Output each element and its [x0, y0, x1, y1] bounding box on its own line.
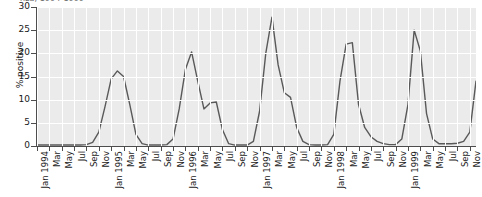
x-tick-label: Sep — [164, 151, 173, 167]
x-tick-label: Jan 1997 — [263, 151, 272, 188]
x-tick-label: Mar — [424, 151, 433, 167]
x-axis-tick-labels: Jan 1994MarMayJulSepNovJan 1995MarMayJul… — [37, 151, 476, 197]
grid-line-vertical — [111, 7, 112, 146]
grid-line-vertical — [173, 7, 174, 146]
grid-line-vertical — [470, 7, 471, 146]
y-tick-label: 25 — [12, 25, 30, 34]
x-tick-label: Jul — [449, 151, 458, 161]
grid-line-vertical — [321, 7, 322, 146]
grid-line-horizontal — [37, 30, 476, 31]
grid-line-vertical — [408, 7, 409, 146]
x-tick-label: Jul — [374, 151, 383, 161]
grid-line-horizontal — [37, 100, 476, 101]
x-tick-label: Jul — [78, 151, 87, 161]
grid-line-vertical — [371, 7, 372, 146]
grid-line-vertical — [297, 7, 298, 146]
grid-line-vertical — [124, 7, 125, 146]
y-tick-label: 10 — [12, 95, 30, 104]
grid-line-vertical — [222, 7, 223, 146]
x-tick-label: Nov — [399, 151, 408, 168]
x-tick-label: Sep — [461, 151, 470, 167]
grid-line-vertical — [272, 7, 273, 146]
x-tick-label: Mar — [127, 151, 136, 167]
x-tick-label: Mar — [350, 151, 359, 167]
y-tick-label: 5 — [12, 118, 30, 127]
grid-line-vertical — [247, 7, 248, 146]
grid-line-vertical — [99, 7, 100, 146]
grid-line-vertical — [359, 7, 360, 146]
grid-line-horizontal — [37, 7, 476, 8]
grid-line-vertical — [383, 7, 384, 146]
x-tick-label: May — [436, 151, 445, 169]
grid-line-vertical — [49, 7, 50, 146]
x-tick-label: May — [288, 151, 297, 169]
grid-line-vertical — [74, 7, 75, 146]
grid-line-vertical — [433, 7, 434, 146]
grid-line-vertical — [346, 7, 347, 146]
y-tick-label: 20 — [12, 48, 30, 57]
x-tick-label: Sep — [90, 151, 99, 167]
grid-line-vertical — [235, 7, 236, 146]
grid-line-vertical — [161, 7, 162, 146]
grid-line-vertical — [284, 7, 285, 146]
x-tick-label: Nov — [177, 151, 186, 168]
grid-line-vertical — [62, 7, 63, 146]
x-tick-label: Jan 1996 — [189, 151, 198, 188]
x-tick-label: May — [65, 151, 74, 169]
x-tick-label: Mar — [53, 151, 62, 167]
x-tick-label: Jul — [226, 151, 235, 161]
x-tick-label: Jan 1999 — [411, 151, 420, 188]
grid-line-horizontal — [37, 123, 476, 124]
grid-line-vertical — [210, 7, 211, 146]
grid-line-vertical — [86, 7, 87, 146]
chart-title-clipped: nza, 1994-1999 — [0, 0, 476, 5]
grid-line-vertical — [185, 7, 186, 146]
x-tick-label: Nov — [473, 151, 482, 168]
x-tick-label: May — [362, 151, 371, 169]
grid-line-horizontal — [37, 77, 476, 78]
plot-area — [37, 7, 476, 146]
grid-line-vertical — [445, 7, 446, 146]
x-tick-label: Mar — [275, 151, 284, 167]
y-axis-tick-labels: 051015202530 — [10, 0, 30, 197]
y-tick-label: 30 — [12, 2, 30, 11]
y-tick-label: 0 — [12, 141, 30, 150]
grid-line-vertical — [309, 7, 310, 146]
x-tick-label: Nov — [325, 151, 334, 168]
x-tick-label: Sep — [238, 151, 247, 167]
grid-line-vertical — [334, 7, 335, 146]
x-tick-label: Jul — [300, 151, 309, 161]
x-tick-label: Jan 1995 — [115, 151, 124, 188]
grid-line-vertical — [148, 7, 149, 146]
x-tick-label: Sep — [387, 151, 396, 167]
x-tick-label: Jul — [152, 151, 161, 161]
grid-line-horizontal — [37, 53, 476, 54]
grid-line-vertical — [198, 7, 199, 146]
grid-line-vertical — [260, 7, 261, 146]
grid-line-vertical — [420, 7, 421, 146]
y-tick-label: 15 — [12, 72, 30, 81]
x-tick-label: Nov — [251, 151, 260, 168]
grid-line-vertical — [457, 7, 458, 146]
x-tick-label: May — [214, 151, 223, 169]
x-tick-label: May — [139, 151, 148, 169]
x-tick-label: Nov — [102, 151, 111, 168]
grid-line-vertical — [136, 7, 137, 146]
grid-line-vertical — [396, 7, 397, 146]
x-tick-label: Jan 1998 — [337, 151, 346, 188]
grid-line-vertical — [37, 7, 38, 146]
x-tick-label: Jan 1994 — [41, 151, 50, 188]
x-tick-label: Mar — [201, 151, 210, 167]
x-tick-label: Sep — [313, 151, 322, 167]
